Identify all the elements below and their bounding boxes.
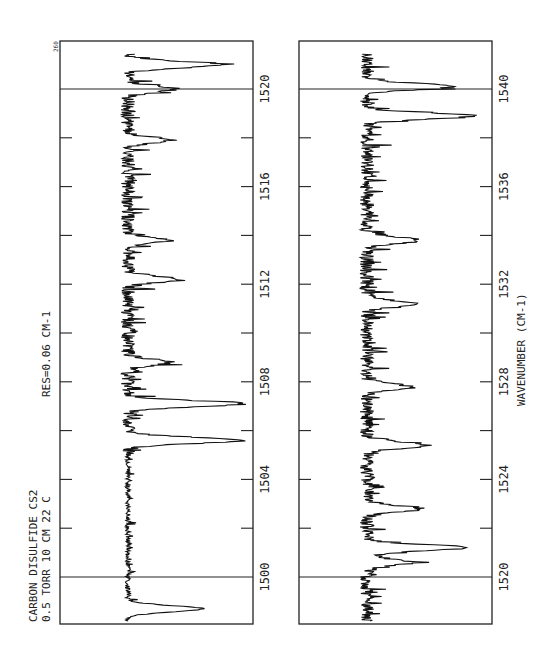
tick-label: 1512 [258,270,272,299]
tick-label: 1532 [497,270,511,299]
lower-tick-labels: 152015241528153215361540 [497,75,511,592]
page-marker: 260 [52,41,59,52]
conditions-label: 0.5 TORR 10 CM 22 C [40,496,53,622]
tick-label: 1520 [258,75,272,104]
upper-spectrum-trace [121,54,246,621]
spectrum-figure: CARBON DISULFIDE CS2 0.5 TORR 10 CM 22 C… [0,0,554,665]
lower-panel-frame [299,41,492,624]
tick-label: 1528 [497,367,511,396]
tick-label: 1524 [497,465,511,494]
tick-label: 1516 [258,172,272,201]
upper-panel-frame [60,41,253,624]
resolution-label: RES=0.06 CM-1 [40,311,53,397]
sample-label: CARBON DISULFIDE CS2 [27,490,40,622]
upper-axis-ticks [60,89,253,577]
lower-axis-ticks [299,89,492,577]
x-axis-title: WAVENUMBER (CM-1) [515,293,528,406]
tick-label: 1500 [258,563,272,592]
lower-spectrum-trace [360,54,477,621]
tick-label: 1520 [497,563,511,592]
tick-label: 1504 [258,465,272,494]
upper-tick-labels: 150015041508151215161520 [258,75,272,592]
tick-label: 1540 [497,75,511,104]
tick-label: 1508 [258,367,272,396]
tick-label: 1536 [497,172,511,201]
